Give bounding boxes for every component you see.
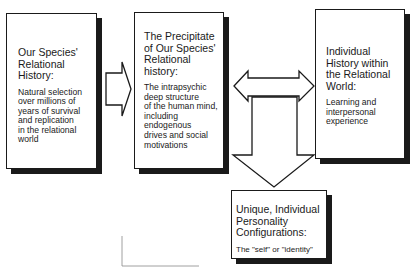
species-history-box: Our Species' Relational History: Natural… [6,13,97,169]
individual-history-body: Learning and interpersonal experience [326,98,406,127]
personality-body: The "self" or "identity" [236,245,328,255]
down-arrow-icon [233,97,314,187]
individual-history-title: Individual History within the Relational… [326,46,406,92]
precipitate-box: The Precipitate of Our Species' Relation… [134,12,224,169]
personality-title: Unique, Individual Personality Configura… [236,204,328,239]
personality-box: Unique, Individual Personality Configura… [231,190,327,259]
right-arrow-icon [106,62,131,116]
stray-line [122,236,199,266]
species-history-body: Natural selection over millions of years… [18,88,98,146]
precipitate-body: The intrapsychic deep structure of the h… [144,83,226,150]
individual-history-box: Individual History within the Relational… [315,9,405,159]
species-history-title: Our Species' Relational History: [18,47,98,82]
precipitate-title: The Precipitate of Our Species' Relation… [144,31,226,77]
